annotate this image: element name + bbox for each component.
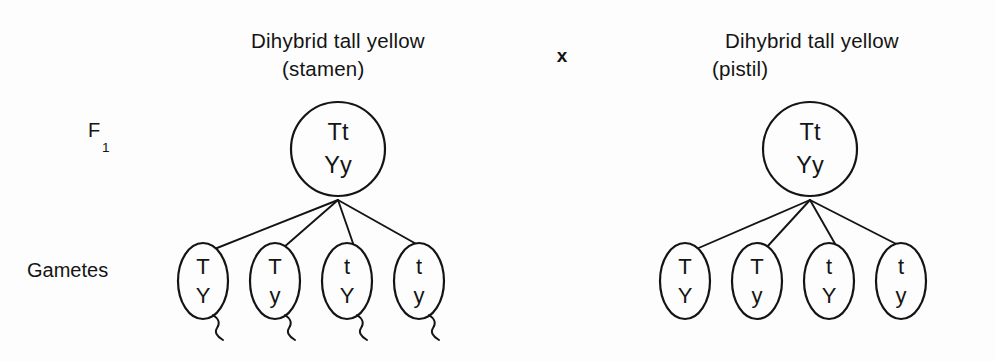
right-gamete-3-allele-line2: Y <box>822 283 837 308</box>
left-parent-caption-line1: Dihybrid tall yellow <box>251 29 425 52</box>
right-parent-cell: Tt Yy <box>763 102 857 196</box>
left-gamete-4-allele-line2: y <box>414 283 425 308</box>
right-gamete-connector-lines <box>694 200 908 250</box>
gametes-stage-label: Gametes <box>27 259 108 281</box>
left-gamete-4: t y <box>394 243 444 340</box>
right-parent-allele-line2: Yy <box>796 152 824 178</box>
right-gamete-1-allele-line2: Y <box>678 283 693 308</box>
left-gamete-connector-lines <box>212 200 427 250</box>
left-gamete-4-allele-line1: t <box>416 254 422 279</box>
left-gamete-1-allele-line1: T <box>196 254 209 279</box>
left-gamete-3-allele-line1: t <box>344 254 350 279</box>
dihybrid-cross-diagram: Dihybrid tall yellow (stamen) x Dihybrid… <box>0 0 995 361</box>
right-gamete-1-allele-line1: T <box>678 254 691 279</box>
left-gamete-1: T Y <box>178 243 228 340</box>
right-connector-1 <box>694 200 810 250</box>
left-gamete-3-pollen-tube <box>357 315 367 340</box>
left-gamete-3-allele-line2: Y <box>340 283 355 308</box>
left-parent-cell: Tt Yy <box>291 102 385 196</box>
right-parent-allele-line1: Tt <box>800 119 821 145</box>
left-parent-caption-line2: (stamen) <box>282 57 364 80</box>
left-gamete-1-pollen-tube <box>213 315 223 340</box>
right-connector-2 <box>766 200 810 248</box>
right-gamete-2: T y <box>732 243 782 319</box>
left-gamete-2-allele-line1: T <box>268 254 281 279</box>
right-gamete-4: t y <box>876 243 926 319</box>
left-gamete-4-pollen-tube <box>429 315 439 340</box>
right-parent-caption-line2: (pistil) <box>712 57 768 80</box>
right-gamete-4-allele-line1: t <box>898 254 904 279</box>
left-gamete-2-pollen-tube <box>285 315 295 340</box>
left-gamete-3: t Y <box>322 243 372 340</box>
left-gamete-2-allele-line2: y <box>270 283 281 308</box>
right-gamete-2-allele-line2: y <box>752 283 763 308</box>
left-parent-allele-line1: Tt <box>328 119 349 145</box>
right-parent-cell-outline <box>763 102 857 196</box>
generation-label-subscript: 1 <box>102 140 110 155</box>
right-gamete-2-allele-line1: T <box>750 254 763 279</box>
cross-symbol: x <box>557 45 568 66</box>
generation-label-f1: F <box>88 119 100 141</box>
right-gamete-3: t Y <box>804 243 854 319</box>
right-gamete-4-allele-line2: y <box>896 283 907 308</box>
right-parent-caption-line1: Dihybrid tall yellow <box>725 29 899 52</box>
right-gamete-1: T Y <box>660 243 710 319</box>
left-parent-cell-outline <box>291 102 385 196</box>
right-gamete-3-allele-line1: t <box>826 254 832 279</box>
pedigree-svg-canvas: Dihybrid tall yellow (stamen) x Dihybrid… <box>0 0 995 361</box>
left-gamete-1-allele-line2: Y <box>196 283 211 308</box>
left-gamete-2: T y <box>250 243 300 340</box>
left-parent-allele-line2: Yy <box>324 152 352 178</box>
left-connector-2 <box>283 200 338 248</box>
